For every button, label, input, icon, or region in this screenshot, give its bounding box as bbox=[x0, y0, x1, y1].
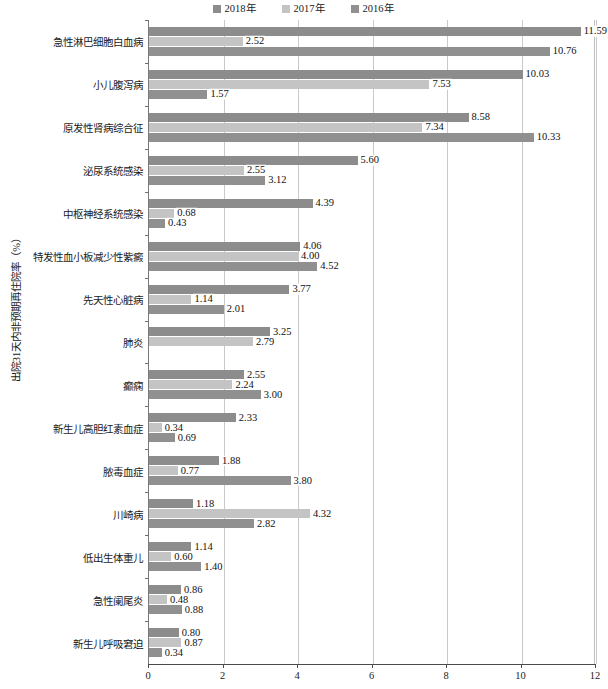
bar-row: 2.79 bbox=[149, 337, 596, 346]
bar-value-label: 0.69 bbox=[177, 433, 197, 444]
x-tick-label: 6 bbox=[369, 670, 374, 681]
bar-2016年 bbox=[149, 648, 162, 657]
bar-value-label: 0.34 bbox=[164, 647, 184, 658]
gridline bbox=[596, 20, 597, 664]
bar-value-label: 0.87 bbox=[183, 637, 203, 648]
bar-row: 4.06 bbox=[149, 242, 596, 251]
bar-row: 0.43 bbox=[149, 219, 596, 228]
bar-value-label: 3.12 bbox=[267, 175, 287, 186]
bar-2018年 bbox=[149, 27, 581, 36]
bar-2016年 bbox=[149, 47, 550, 56]
bar-row: 2.82 bbox=[149, 519, 596, 528]
bar-value-label: 10.03 bbox=[525, 69, 551, 80]
bar-2016年 bbox=[149, 305, 224, 314]
category-label: 特发性血小板减少性紫癜 bbox=[33, 249, 143, 264]
y-tick bbox=[145, 492, 149, 493]
category-group: 低出生体重儿1.140.601.40 bbox=[149, 535, 596, 578]
bar-2016年 bbox=[149, 176, 265, 185]
bar-row: 2.52 bbox=[149, 37, 596, 46]
bar-row: 3.25 bbox=[149, 327, 596, 336]
bar-row: 4.00 bbox=[149, 252, 596, 261]
legend-label: 2018年 bbox=[225, 4, 256, 15]
bar-row: 1.88 bbox=[149, 456, 596, 465]
bar-value-label: 2.52 bbox=[245, 36, 265, 47]
category-label: 先天性心脏病 bbox=[83, 292, 143, 307]
y-tick bbox=[145, 406, 149, 407]
bar-row: 1.14 bbox=[149, 295, 596, 304]
bar-value-label: 1.57 bbox=[209, 89, 229, 100]
category-group: 中枢神经系统感染4.390.680.43 bbox=[149, 192, 596, 235]
bar-2018年 bbox=[149, 113, 469, 122]
bar-value-label: 0.60 bbox=[173, 551, 193, 562]
category-group: 癫痫2.552.243.00 bbox=[149, 363, 596, 406]
legend-item-2016年: 2016年 bbox=[351, 4, 394, 15]
x-tick-label: 0 bbox=[145, 670, 150, 681]
y-tick bbox=[145, 449, 149, 450]
bar-2017年 bbox=[149, 552, 171, 561]
bar-value-label: 3.25 bbox=[272, 327, 292, 338]
bar-2018年 bbox=[149, 70, 523, 79]
y-tick bbox=[145, 149, 149, 150]
bar-2018年 bbox=[149, 413, 236, 422]
bar-2016年 bbox=[149, 605, 182, 614]
bar-value-label: 4.52 bbox=[319, 261, 339, 272]
bar-row: 0.69 bbox=[149, 433, 596, 442]
bar-row: 1.40 bbox=[149, 562, 596, 571]
bar-row: 4.32 bbox=[149, 509, 596, 518]
legend-item-2018年: 2018年 bbox=[213, 4, 256, 15]
y-tick bbox=[145, 621, 149, 622]
bar-2016年 bbox=[149, 433, 175, 442]
bar-row: 10.03 bbox=[149, 70, 596, 79]
bar-2017年 bbox=[149, 595, 167, 604]
x-tick bbox=[372, 664, 373, 668]
bar-row: 0.88 bbox=[149, 605, 596, 614]
x-tick bbox=[223, 664, 224, 668]
category-label: 新生儿呼吸窘迫 bbox=[73, 635, 143, 650]
bar-2017年 bbox=[149, 252, 298, 261]
bar-value-label: 1.14 bbox=[193, 541, 213, 552]
bar-row: 0.68 bbox=[149, 209, 596, 218]
bar-row: 1.57 bbox=[149, 90, 596, 99]
bar-value-label: 3.00 bbox=[263, 390, 283, 401]
bar-row: 2.01 bbox=[149, 305, 596, 314]
bar-value-label: 2.33 bbox=[238, 413, 258, 424]
bar-row: 2.24 bbox=[149, 380, 596, 389]
bar-2016年 bbox=[149, 562, 201, 571]
bar-row: 3.00 bbox=[149, 390, 596, 399]
bar-2017年 bbox=[149, 123, 422, 132]
bar-value-label: 0.77 bbox=[180, 466, 200, 477]
x-tick-label: 2 bbox=[220, 670, 225, 681]
bar-value-label: 2.24 bbox=[234, 380, 254, 391]
bar-value-label: 2.79 bbox=[255, 337, 275, 348]
category-group: 新生儿呼吸窘迫0.800.870.34 bbox=[149, 621, 596, 664]
bar-2016年 bbox=[149, 390, 261, 399]
x-tick bbox=[297, 664, 298, 668]
category-label: 癫痫 bbox=[123, 377, 143, 392]
y-tick bbox=[145, 278, 149, 279]
bar-value-label: 10.33 bbox=[536, 132, 562, 143]
category-label: 脓毒血症 bbox=[103, 463, 143, 478]
legend-label: 2017年 bbox=[294, 4, 325, 15]
bar-value-label: 1.14 bbox=[193, 294, 213, 305]
bar-value-label: 0.43 bbox=[167, 218, 187, 229]
bar-value-label: 7.34 bbox=[424, 122, 444, 133]
bar-2017年 bbox=[149, 509, 310, 518]
bar-value-label: 3.80 bbox=[293, 476, 313, 487]
bar-2017年 bbox=[149, 166, 244, 175]
bar-row: 8.58 bbox=[149, 113, 596, 122]
bar-2016年 bbox=[149, 133, 534, 142]
bar-2018年 bbox=[149, 327, 270, 336]
category-label: 新生儿高胆红素血症 bbox=[53, 420, 143, 435]
bar-row: 1.18 bbox=[149, 499, 596, 508]
bar-value-label: 2.82 bbox=[256, 518, 276, 529]
y-tick bbox=[145, 192, 149, 193]
bar-row: 0.34 bbox=[149, 648, 596, 657]
category-label: 急性淋巴细胞白血病 bbox=[53, 34, 143, 49]
bar-2018年 bbox=[149, 499, 193, 508]
y-tick bbox=[145, 535, 149, 536]
legend-label: 2016年 bbox=[363, 4, 394, 15]
bar-row: 4.39 bbox=[149, 199, 596, 208]
bar-row: 2.55 bbox=[149, 370, 596, 379]
bar-value-label: 3.77 bbox=[291, 284, 311, 295]
bar-2017年 bbox=[149, 380, 232, 389]
